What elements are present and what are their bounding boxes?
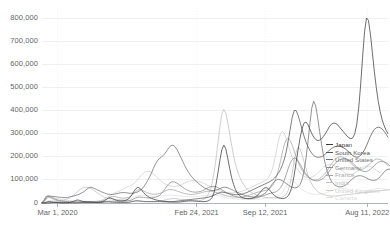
legend-label: Germany: [335, 164, 361, 172]
y-axis-tick-label: 200,000: [0, 152, 38, 160]
legend-color-swatch: [326, 182, 333, 183]
y-axis-tick-label: 100,000: [0, 175, 38, 183]
legend-color-swatch: [326, 159, 333, 160]
legend-color-swatch: [326, 144, 333, 145]
legend-item[interactable]: Japan: [326, 141, 388, 149]
x-axis-ticks: [58, 8, 368, 207]
legend-label: India: [335, 179, 349, 187]
y-axis-tick-label: 500,000: [0, 83, 38, 91]
x-axis-tick-label: Feb 24, 2021: [162, 208, 232, 217]
legend-label: Canada: [335, 194, 357, 202]
y-axis-tick-label: 0: [0, 199, 38, 207]
y-axis-tick-label: 400,000: [0, 106, 38, 114]
legend-color-swatch: [326, 190, 333, 191]
y-axis-tick-label: 800,000: [0, 14, 38, 22]
y-axis-tick-label: 300,000: [0, 129, 38, 137]
y-axis-tick-label: 600,000: [0, 60, 38, 68]
legend-item[interactable]: India: [326, 179, 388, 187]
legend-item[interactable]: United States: [326, 156, 388, 164]
x-axis-tick-label: Mar 1, 2020: [23, 208, 93, 217]
legend-color-swatch: [326, 175, 333, 176]
legend-label: France: [335, 171, 355, 179]
y-axis-tick-label: 700,000: [0, 37, 38, 45]
legend-item[interactable]: United Kingdom: [326, 187, 388, 195]
legend-item[interactable]: Canada: [326, 194, 388, 202]
legend[interactable]: JapanSouth KoreaUnited StatesGermanyFran…: [326, 141, 388, 202]
legend-item[interactable]: France: [326, 171, 388, 179]
x-axis-tick-label: Aug 11, 2022: [332, 208, 390, 217]
legend-color-swatch: [326, 152, 333, 153]
legend-label: South Korea: [335, 149, 370, 157]
legend-color-swatch: [326, 167, 333, 168]
legend-label: United States: [335, 156, 373, 164]
line-chart: 800,000700,000600,000500,000400,000300,0…: [0, 0, 390, 225]
legend-color-swatch: [326, 197, 333, 198]
legend-label: Japan: [335, 141, 352, 149]
x-axis-tick-label: Sep 12, 2021: [230, 208, 300, 217]
legend-item[interactable]: South Korea: [326, 149, 388, 157]
legend-label: United Kingdom: [335, 187, 380, 195]
legend-item[interactable]: Germany: [326, 164, 388, 172]
